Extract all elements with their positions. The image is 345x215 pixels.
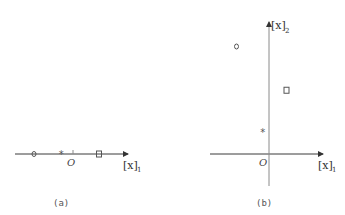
caption-b: (b) xyxy=(256,198,272,208)
star-point-a: * xyxy=(59,149,64,160)
x-axis-subscript-a: 1 xyxy=(137,166,141,174)
panel-a: O [x] 1 * (a) xyxy=(15,149,141,208)
x-axis-subscript-b: 1 xyxy=(332,166,336,174)
circle-point-b xyxy=(235,44,239,49)
y-axis-label-b: [x] xyxy=(271,19,286,32)
star-point-b: * xyxy=(260,127,265,138)
figure: O [x] 1 * (a) O [x] 1 [x] 2 * (b) xyxy=(0,0,345,215)
caption-a: (a) xyxy=(53,198,69,208)
origin-label-a: O xyxy=(67,157,75,168)
y-axis-subscript-b: 2 xyxy=(285,27,289,35)
x-axis-label-a: [x] xyxy=(123,159,138,172)
square-point-b xyxy=(284,87,289,93)
panel-b: O [x] 1 [x] 2 * (b) xyxy=(210,19,336,208)
x-axis-label-b: [x] xyxy=(318,159,333,172)
origin-label-b: O xyxy=(259,157,267,168)
points-b: * xyxy=(235,44,290,138)
